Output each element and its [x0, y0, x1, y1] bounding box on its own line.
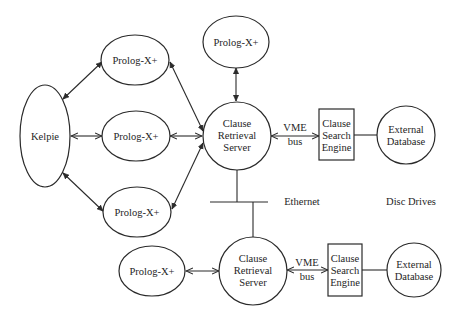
- vme-bottom-label-2: bus: [300, 271, 315, 282]
- node-prolog-top-label: Prolog-X+: [213, 37, 258, 48]
- node-server-top-label-3: Server: [223, 142, 251, 153]
- node-db-bottom-label-2: Database: [395, 271, 434, 282]
- node-prolog-low-left: Prolog-X+: [103, 187, 171, 237]
- label-ethernet: Ethernet: [284, 196, 320, 207]
- node-db-top-label-1: External: [388, 124, 424, 135]
- node-server-top: Clause Retrieval Server: [203, 102, 271, 170]
- edge-kelpie-prolog-low-left: [63, 173, 103, 211]
- node-prolog-bottom: Prolog-X+: [119, 246, 185, 296]
- node-kelpie-label: Kelpie: [31, 131, 59, 142]
- node-prolog-mid-left: Prolog-X+: [102, 111, 170, 161]
- node-db-top: External Database: [377, 106, 435, 164]
- node-engine-top-label-3: Engine: [322, 142, 352, 153]
- node-server-bottom-label-1: Clause: [239, 253, 268, 264]
- edge-prolog-top-left-server: [170, 62, 203, 131]
- node-prolog-mid-left-label: Prolog-X+: [113, 131, 158, 142]
- architecture-diagram: Kelpie Prolog-X+ Prolog-X+ Prolog-X+ Pro…: [0, 0, 457, 322]
- node-db-bottom: External Database: [387, 243, 441, 297]
- node-server-bottom-label-3: Server: [239, 277, 267, 288]
- edge-kelpie-prolog-top-left: [63, 62, 102, 99]
- node-engine-bottom-label-2: Search: [331, 265, 360, 276]
- node-prolog-low-left-label: Prolog-X+: [114, 207, 159, 218]
- node-server-bottom: Clause Retrieval Server: [219, 237, 287, 305]
- node-db-bottom-label-1: External: [396, 259, 432, 270]
- node-engine-bottom-label-1: Clause: [331, 253, 360, 264]
- node-engine-bottom-label-3: Engine: [330, 277, 360, 288]
- label-vme-top: VME bus: [283, 122, 306, 147]
- node-server-top-label-1: Clause: [223, 118, 252, 129]
- node-prolog-top-left: Prolog-X+: [101, 35, 169, 85]
- node-engine-top: Clause Search Engine: [319, 109, 354, 160]
- node-prolog-bottom-label: Prolog-X+: [129, 266, 174, 277]
- node-server-top-label-2: Retrieval: [218, 130, 257, 141]
- vme-top-label-2: bus: [288, 136, 303, 147]
- label-disc-drives: Disc Drives: [386, 196, 436, 207]
- node-db-top-label-2: Database: [387, 136, 426, 147]
- node-prolog-top: Prolog-X+: [203, 16, 269, 68]
- node-server-bottom-label-2: Retrieval: [234, 265, 273, 276]
- node-engine-top-label-2: Search: [322, 130, 351, 141]
- node-kelpie: Kelpie: [20, 85, 70, 187]
- node-prolog-top-left-label: Prolog-X+: [112, 55, 157, 66]
- edge-prolog-low-left-server: [172, 143, 203, 209]
- node-engine-top-label-1: Clause: [322, 118, 351, 129]
- vme-bottom-label-1: VME: [295, 257, 318, 268]
- vme-top-label-1: VME: [283, 122, 306, 133]
- node-engine-bottom: Clause Search Engine: [328, 244, 362, 296]
